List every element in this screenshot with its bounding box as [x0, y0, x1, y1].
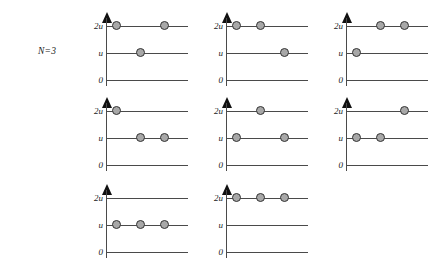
- particle-marker: [232, 21, 241, 30]
- particle-marker: [400, 21, 409, 30]
- axis-tick-label: u: [199, 221, 226, 230]
- axis-tick-label: 0: [319, 76, 346, 85]
- axis-tick-label: 2u: [79, 22, 106, 31]
- particle-marker: [280, 193, 289, 202]
- axis-tick-label: 0: [199, 76, 226, 85]
- energy-level-line: u: [106, 53, 188, 54]
- particle-marker: [352, 133, 361, 142]
- energy-level-line: u: [106, 225, 188, 226]
- axis-tick-label: 2u: [319, 107, 346, 116]
- axis-tick-label: u: [319, 49, 346, 58]
- axis-tick-label: 0: [79, 248, 106, 257]
- axis-tick-label: 2u: [199, 22, 226, 31]
- panel-4: 2uu0: [80, 97, 198, 177]
- axis-tick-label: u: [319, 134, 346, 143]
- particle-marker: [112, 220, 121, 229]
- energy-level-line: 0: [106, 252, 188, 253]
- energy-axis: [226, 103, 227, 171]
- energy-level-line: u: [226, 225, 308, 226]
- energy-level-line: 0: [106, 165, 188, 166]
- axis-tick-label: 0: [79, 161, 106, 170]
- axis-tick-label: u: [199, 134, 226, 143]
- energy-level-line: u: [106, 138, 188, 139]
- energy-level-line: 0: [346, 165, 428, 166]
- energy-axis: [106, 190, 107, 258]
- panel-6: 2uu0: [320, 97, 432, 177]
- axis-tick-label: 0: [319, 161, 346, 170]
- particle-marker: [232, 133, 241, 142]
- particle-marker: [136, 133, 145, 142]
- panel-3: 2uu0: [320, 12, 432, 92]
- energy-level-line: 2u: [346, 26, 428, 27]
- particle-marker: [400, 106, 409, 115]
- axis-tick-label: 0: [199, 161, 226, 170]
- particle-marker: [112, 106, 121, 115]
- particle-marker: [256, 193, 265, 202]
- particle-marker: [352, 48, 361, 57]
- energy-axis: [346, 18, 347, 86]
- energy-level-line: 2u: [106, 26, 188, 27]
- axis-tick-label: u: [79, 49, 106, 58]
- axis-tick-label: 0: [79, 76, 106, 85]
- particle-marker: [160, 21, 169, 30]
- energy-axis: [226, 190, 227, 258]
- axis-tick-label: u: [79, 134, 106, 143]
- particle-marker: [256, 106, 265, 115]
- axis-tick-label: 2u: [199, 107, 226, 116]
- energy-level-diagram-figure: N=3 2uu02uu02uu02uu02uu02uu02uu02uu0: [0, 0, 432, 271]
- particle-marker: [376, 21, 385, 30]
- panel-5: 2uu0: [200, 97, 318, 177]
- energy-axis: [226, 18, 227, 86]
- energy-level-line: 0: [226, 252, 308, 253]
- particle-marker: [136, 48, 145, 57]
- energy-level-line: 2u: [226, 198, 308, 199]
- particle-marker: [232, 193, 241, 202]
- energy-level-line: 2u: [346, 111, 428, 112]
- particle-marker: [136, 220, 145, 229]
- particle-marker: [160, 133, 169, 142]
- energy-axis: [106, 18, 107, 86]
- particle-marker: [280, 133, 289, 142]
- axis-tick-label: 2u: [199, 194, 226, 203]
- energy-level-line: 0: [226, 80, 308, 81]
- panel-8: 2uu0: [200, 184, 318, 264]
- axis-tick-label: 2u: [79, 107, 106, 116]
- energy-level-line: 0: [106, 80, 188, 81]
- panel-2: 2uu0: [200, 12, 318, 92]
- energy-level-line: 2u: [106, 198, 188, 199]
- axis-tick-label: 0: [199, 248, 226, 257]
- energy-level-line: u: [226, 138, 308, 139]
- particle-marker: [256, 21, 265, 30]
- energy-level-line: 2u: [226, 111, 308, 112]
- panel-7: 2uu0: [80, 184, 198, 264]
- particle-count-label: N=3: [38, 46, 56, 56]
- axis-tick-label: u: [199, 49, 226, 58]
- energy-level-line: 2u: [106, 111, 188, 112]
- energy-level-line: 0: [346, 80, 428, 81]
- energy-level-line: u: [346, 138, 428, 139]
- energy-level-line: 2u: [226, 26, 308, 27]
- axis-tick-label: 2u: [319, 22, 346, 31]
- axis-tick-label: u: [79, 221, 106, 230]
- energy-level-line: u: [346, 53, 428, 54]
- particle-marker: [280, 48, 289, 57]
- axis-tick-label: 2u: [79, 194, 106, 203]
- particle-marker: [376, 133, 385, 142]
- particle-marker: [112, 21, 121, 30]
- panel-1: 2uu0: [80, 12, 198, 92]
- particle-marker: [160, 220, 169, 229]
- energy-level-line: 0: [226, 165, 308, 166]
- energy-axis: [346, 103, 347, 171]
- energy-axis: [106, 103, 107, 171]
- energy-level-line: u: [226, 53, 308, 54]
